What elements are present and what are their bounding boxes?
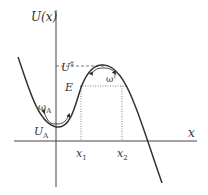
barrier-frequency-arc (92, 68, 115, 73)
energy-level-label: E (64, 81, 73, 94)
potential-energy-diagram: U(x) x U‡ E ωA UA ω‡ x1 x2 (0, 0, 208, 195)
well-energy-label: UA (34, 125, 49, 140)
barrier-frequency-label: ω‡ (106, 72, 116, 84)
barrier-energy-label: U‡ (61, 60, 74, 74)
potential-curve (18, 57, 162, 183)
y-axis-label: U(x) (31, 10, 58, 24)
x1-label: x1 (76, 147, 87, 162)
x2-label: x2 (117, 147, 128, 162)
x-axis-label: x (188, 126, 195, 140)
